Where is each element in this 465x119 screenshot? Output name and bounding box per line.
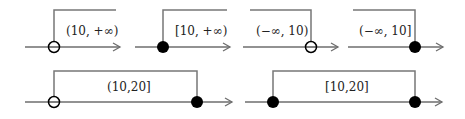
closed-endpoint-icon <box>409 96 421 108</box>
closed-endpoint-icon <box>267 96 279 108</box>
interval-panel-6: [10,20] <box>245 71 442 108</box>
interval-panel-3: (−∞, 10) <box>243 10 338 53</box>
interval-label: (10,20] <box>107 80 151 94</box>
interval-panel-2: [10, +∞) <box>135 10 230 53</box>
interval-panel-5: (10,20] <box>25 71 232 108</box>
closed-endpoint-icon <box>157 41 169 53</box>
interval-diagrams: (10, +∞) [10, +∞) (−∞, 10) (−∞, 10] (10,… <box>0 0 465 119</box>
interval-label: (10, +∞) <box>66 24 118 38</box>
interval-label: (−∞, 10] <box>359 24 411 38</box>
interval-panel-1: (10, +∞) <box>25 10 120 53</box>
closed-endpoint-icon <box>191 96 203 108</box>
closed-endpoint-icon <box>409 41 421 53</box>
interval-label: [10, +∞) <box>175 24 227 38</box>
interval-panel-4: (−∞, 10] <box>348 10 443 53</box>
interval-label: (−∞, 10) <box>256 24 308 38</box>
interval-label: [10,20] <box>325 80 369 94</box>
